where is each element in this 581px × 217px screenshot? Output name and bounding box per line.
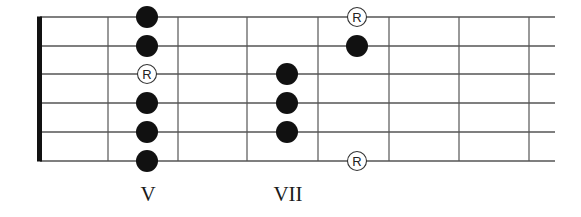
strings (40, 17, 555, 161)
note-dot (136, 35, 158, 57)
note-dot (276, 92, 298, 114)
note-dot (136, 6, 158, 28)
note-dot (276, 63, 298, 85)
note-dot (136, 92, 158, 114)
root-label: R (142, 67, 151, 82)
fretboard-diagram: RRR V VII (0, 0, 581, 217)
fret-label-v: V (140, 182, 155, 206)
root-note-marker: R (348, 8, 367, 27)
root-note-marker: R (138, 65, 157, 84)
root-note-marker: R (348, 152, 367, 171)
nut (37, 17, 42, 162)
note-dot (136, 150, 158, 172)
frets (108, 17, 529, 161)
note-dot (346, 35, 368, 57)
notes: RRR (136, 6, 368, 172)
note-dot (276, 121, 298, 143)
root-label: R (352, 154, 361, 169)
root-label: R (352, 10, 361, 25)
fret-label-vii: VII (273, 182, 302, 206)
fret-labels: V VII (140, 182, 302, 206)
note-dot (136, 121, 158, 143)
